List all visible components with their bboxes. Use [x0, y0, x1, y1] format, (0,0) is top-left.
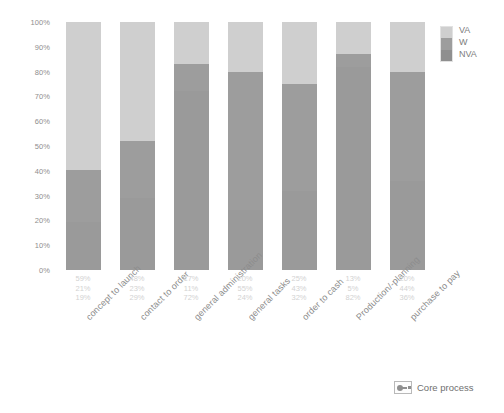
bar-group[interactable]: [282, 22, 317, 270]
legend-swatch-nva: [441, 50, 452, 61]
stacked-bar-chart: 100%90%80%70%60%50%40%30%20%10%0% VA W N…: [0, 0, 504, 413]
bar-segment-w[interactable]: [120, 141, 155, 198]
value-label-w: 44%: [382, 284, 433, 294]
value-label-w: 21%: [58, 284, 109, 294]
bar-segment-va[interactable]: [228, 22, 263, 72]
bar-segment-w[interactable]: [390, 72, 425, 181]
legend-swatch-va: [441, 27, 452, 38]
bar-segment-nva[interactable]: [282, 191, 317, 270]
bar-segment-va[interactable]: [66, 22, 101, 170]
y-axis-tick: 100%: [30, 18, 50, 27]
core-process-note: Core process: [394, 381, 474, 394]
bar-segment-nva[interactable]: [390, 181, 425, 270]
y-axis-tick: 0%: [39, 266, 50, 275]
plot-area: [56, 22, 434, 270]
bar-segment-va[interactable]: [120, 22, 155, 141]
value-label-va: 17%: [166, 274, 217, 284]
legend-label-group: VA W NVA: [459, 24, 477, 60]
bar-segment-va[interactable]: [174, 22, 209, 64]
value-label-w: 43%: [274, 284, 325, 294]
bar-segment-nva[interactable]: [120, 198, 155, 270]
value-label-va: 25%: [274, 274, 325, 284]
bar-segment-nva[interactable]: [174, 91, 209, 270]
core-process-icon: [394, 381, 412, 394]
y-axis-tick: 10%: [35, 241, 50, 250]
bar-segment-w[interactable]: [174, 64, 209, 91]
stacked-bar[interactable]: [282, 22, 317, 270]
legend-label-nva: NVA: [459, 48, 477, 60]
y-axis-tick: 40%: [35, 166, 50, 175]
core-process-label: Core process: [417, 382, 474, 393]
legend-swatch-w: [441, 38, 452, 49]
y-axis-tick: 80%: [35, 67, 50, 76]
bar-group[interactable]: [174, 22, 209, 270]
bar-segment-w[interactable]: [336, 54, 371, 66]
bar-group[interactable]: [390, 22, 425, 270]
value-label-w: 55%: [220, 284, 271, 294]
value-label-w: 5%: [328, 284, 379, 294]
y-axis-tick: 60%: [35, 117, 50, 126]
stacked-bar[interactable]: [120, 22, 155, 270]
stacked-bar[interactable]: [228, 22, 263, 270]
legend-swatch-group: [440, 26, 453, 62]
bar-segment-w[interactable]: [228, 72, 263, 210]
stacked-bar[interactable]: [66, 22, 101, 270]
bar-segment-w[interactable]: [282, 84, 317, 191]
bar-group[interactable]: [120, 22, 155, 270]
value-label-va: 13%: [328, 274, 379, 284]
y-axis-tick: 20%: [35, 216, 50, 225]
bar-group[interactable]: [228, 22, 263, 270]
value-label-w: 23%: [112, 284, 163, 294]
y-axis: 100%90%80%70%60%50%40%30%20%10%0%: [10, 22, 54, 270]
value-label-w: 11%: [166, 284, 217, 294]
bar-segment-va[interactable]: [390, 22, 425, 72]
y-axis-tick: 50%: [35, 142, 50, 151]
bar-segment-va[interactable]: [282, 22, 317, 84]
value-label-va: 20%: [382, 274, 433, 284]
stacked-bar[interactable]: [336, 22, 371, 270]
value-label-va: 20%: [220, 274, 271, 284]
value-label-va: 59%: [58, 274, 109, 284]
bar-group[interactable]: [336, 22, 371, 270]
bar-segment-va[interactable]: [336, 22, 371, 54]
legend-label-va: VA: [459, 24, 477, 36]
y-axis-tick: 70%: [35, 92, 50, 101]
legend-label-w: W: [459, 36, 477, 48]
y-axis-tick: 90%: [35, 42, 50, 51]
stacked-bar[interactable]: [174, 22, 209, 270]
value-label-va: 48%: [112, 274, 163, 284]
bar-group[interactable]: [66, 22, 101, 270]
y-axis-tick: 30%: [35, 191, 50, 200]
stacked-bar[interactable]: [390, 22, 425, 270]
bar-segment-nva[interactable]: [336, 67, 371, 270]
bar-segment-w[interactable]: [66, 170, 101, 223]
bar-segment-nva[interactable]: [66, 222, 101, 270]
